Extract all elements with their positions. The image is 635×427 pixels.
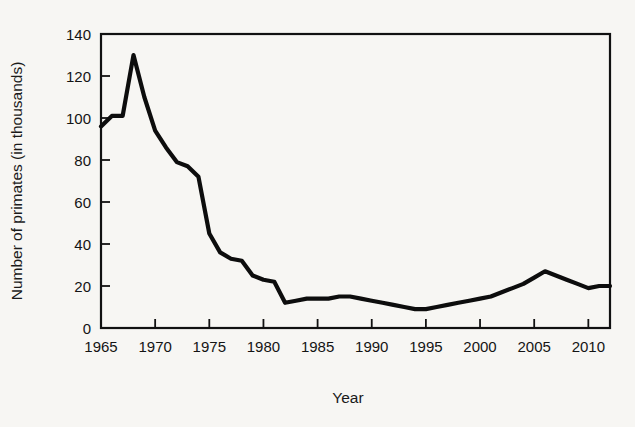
y-tick-label: 80 [74,152,91,169]
y-tick-label: 140 [66,26,91,43]
x-tick-label: 2010 [572,338,605,355]
y-tick-label: 20 [74,278,91,295]
plot-frame [101,34,610,328]
chart-figure: 020406080100120140 196519701975198019851… [0,0,635,427]
y-axis-title: Number of primates (in thousands) [8,62,25,301]
x-tick-label: 1975 [193,338,226,355]
x-tick-label: 1985 [301,338,334,355]
x-tick-label: 1965 [84,338,117,355]
x-tick-label: 1990 [355,338,388,355]
x-tick-label: 2000 [463,338,496,355]
y-tick-label: 40 [74,236,91,253]
line-chart: 020406080100120140 196519701975198019851… [0,0,635,427]
y-axis-ticks [101,76,110,286]
x-axis-ticks [155,319,588,328]
x-tick-label: 2005 [518,338,551,355]
y-tick-label: 120 [66,68,91,85]
y-axis-tick-labels: 020406080100120140 [66,26,91,337]
y-tick-label: 0 [83,320,91,337]
x-axis-title: Year [332,389,363,406]
x-axis-tick-labels: 1965197019751980198519901995200020052010 [84,338,605,355]
y-tick-label: 60 [74,194,91,211]
x-tick-label: 1980 [247,338,280,355]
data-series-line [101,55,610,309]
y-tick-label: 100 [66,110,91,127]
x-tick-label: 1995 [409,338,442,355]
x-tick-label: 1970 [138,338,171,355]
